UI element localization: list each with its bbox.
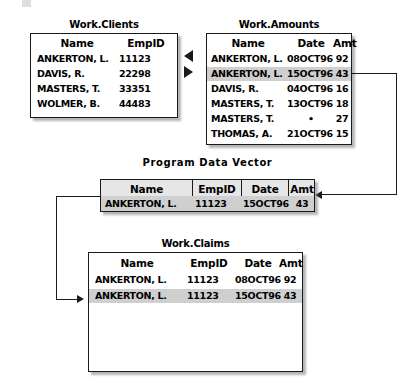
cell-name: ANKERTON, L.	[95, 289, 167, 303]
connector-amounts-to-pdv-horizontal-bottom	[322, 194, 397, 195]
column-header-date: Date	[287, 36, 335, 50]
cell-name: MASTERS, T.	[37, 82, 100, 96]
cell-empid: 11123	[195, 196, 227, 211]
cell-date-missing: •	[287, 112, 335, 126]
left-triangle-icon	[184, 50, 193, 62]
table-row-highlighted: ANKERTON, L. 15OCT96 43	[207, 67, 351, 81]
column-header-amt: Amt	[289, 181, 315, 197]
column-header-name: Name	[101, 181, 192, 197]
cell-name: MASTERS, T.	[211, 112, 274, 126]
cell-date: 15OCT96	[235, 289, 281, 303]
cell-name: ANKERTON, L.	[211, 67, 283, 81]
table-row: MASTERS, T. • 27	[207, 112, 351, 126]
column-header-empid: EmpID	[185, 256, 233, 270]
cell-date: 04OCT96	[287, 82, 333, 96]
scan-artifact	[22, 0, 31, 7]
cell-name: MASTERS, T.	[211, 97, 274, 111]
cell-amt: 15	[333, 127, 351, 141]
cell-amt: 43	[289, 196, 315, 211]
table-row: MASTERS, T. 33351	[31, 82, 177, 96]
cell-amt: 43	[279, 289, 301, 303]
arrow-into-claims-icon	[77, 295, 84, 303]
cell-empid: 11123	[187, 289, 219, 303]
cell-amt: 92	[279, 273, 301, 287]
cell-empid: 22298	[119, 67, 151, 81]
cell-amt: 27	[333, 112, 351, 126]
cell-amt: 16	[333, 82, 351, 96]
table-row: ANKERTON, L. 11123 08OCT96 92	[89, 273, 302, 287]
right-triangle-icon	[184, 66, 193, 78]
connector-pdv-to-claims-horizontal-bottom	[56, 299, 78, 300]
work-claims-title: Work.Claims	[88, 238, 303, 249]
work-claims-table: Name EmpID Date Amt ANKERTON, L. 11123 0…	[88, 252, 303, 372]
cell-date: 08OCT96	[235, 273, 281, 287]
cell-date: 21OCT96	[287, 127, 333, 141]
table-header-row: Name Date Amt	[207, 36, 351, 50]
cell-name: ANKERTON, L.	[95, 273, 167, 287]
connector-amounts-to-pdv-vertical	[396, 73, 397, 195]
column-header-date: Date	[235, 256, 281, 270]
cell-name: DAVIS, R.	[211, 82, 259, 96]
work-clients-title: Work.Clients	[30, 19, 178, 30]
program-data-vector-title: Program Data Vector	[100, 157, 315, 168]
program-data-vector-table: Name EmpID Date Amt ANKERTON, L. 11123 1…	[100, 179, 315, 212]
work-amounts-table: Name Date Amt ANKERTON, L. 08OCT96 92 AN…	[206, 33, 352, 145]
cell-name: THOMAS, A.	[211, 127, 272, 141]
cell-amt: 18	[333, 97, 351, 111]
cell-date: 13OCT96	[287, 97, 333, 111]
cell-amt: 43	[333, 67, 351, 81]
cell-date: 15OCT96	[243, 196, 289, 211]
cell-name: DAVIS, R.	[37, 67, 85, 81]
table-row-highlighted: ANKERTON, L. 11123 15OCT96 43	[89, 289, 302, 303]
cell-empid: 33351	[119, 82, 151, 96]
cell-name: WOLMER, B.	[37, 97, 100, 111]
table-row: MASTERS, T. 13OCT96 18	[207, 97, 351, 111]
column-header-amt: Amt	[279, 256, 301, 270]
cell-empid: 44483	[119, 97, 151, 111]
column-header-empid: EmpID	[193, 181, 241, 197]
diagram-canvas: Work.Clients Name EmpID ANKERTON, L. 111…	[0, 0, 413, 391]
cell-empid: 11123	[119, 52, 151, 66]
table-row: ANKERTON, L. 08OCT96 92	[207, 52, 351, 66]
connector-pdv-to-claims-horizontal-top	[56, 196, 100, 197]
work-clients-table: Name EmpID ANKERTON, L. 11123 DAVIS, R. …	[30, 33, 178, 118]
cell-date: 15OCT96	[287, 67, 333, 81]
column-header-name: Name	[93, 256, 181, 270]
cell-amt: 92	[333, 52, 351, 66]
cell-name: ANKERTON, L.	[105, 196, 177, 211]
table-row: ANKERTON, L. 11123	[31, 52, 177, 66]
column-header-amt: Amt	[333, 36, 351, 50]
column-header-date: Date	[242, 181, 288, 197]
table-row: THOMAS, A. 21OCT96 15	[207, 127, 351, 141]
arrow-into-pdv-icon	[315, 191, 322, 199]
table-row: DAVIS, R. 04OCT96 16	[207, 82, 351, 96]
table-row: DAVIS, R. 22298	[31, 67, 177, 81]
column-header-name: Name	[211, 36, 285, 50]
column-header-name: Name	[37, 36, 117, 50]
column-header-empid: EmpID	[119, 36, 173, 50]
cell-name: ANKERTON, L.	[37, 52, 109, 66]
work-amounts-title: Work.Amounts	[206, 19, 352, 30]
table-row-highlighted: ANKERTON, L. 11123 15OCT96 43	[101, 196, 314, 211]
table-row: WOLMER, B. 44483	[31, 97, 177, 111]
connector-amounts-to-pdv-horizontal-top	[352, 73, 397, 74]
table-header-row: Name EmpID	[31, 36, 177, 50]
connector-pdv-to-claims-vertical	[56, 196, 57, 299]
cell-empid: 11123	[187, 273, 219, 287]
table-header-row: Name EmpID Date Amt	[89, 256, 302, 270]
cell-date: 08OCT96	[287, 52, 333, 66]
cell-name: ANKERTON, L.	[211, 52, 283, 66]
